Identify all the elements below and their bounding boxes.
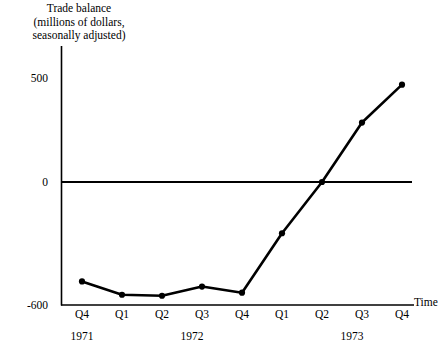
data-point-Q1-1 bbox=[119, 292, 125, 298]
plot-area bbox=[0, 0, 438, 347]
data-point-Q4-8 bbox=[399, 82, 405, 88]
data-point-Q2-6 bbox=[319, 179, 325, 185]
data-point-Q2-2 bbox=[159, 293, 165, 299]
trade-balance-line-chart: Trade balance (millions of dollars, seas… bbox=[0, 0, 438, 347]
data-series-line bbox=[82, 85, 402, 296]
data-point-Q4-4 bbox=[239, 290, 245, 296]
data-point-Q3-7 bbox=[359, 119, 365, 125]
data-point-Q3-3 bbox=[199, 283, 205, 289]
data-point-markers bbox=[79, 82, 405, 299]
data-point-Q4-0 bbox=[79, 278, 85, 284]
data-point-Q1-5 bbox=[279, 230, 285, 236]
